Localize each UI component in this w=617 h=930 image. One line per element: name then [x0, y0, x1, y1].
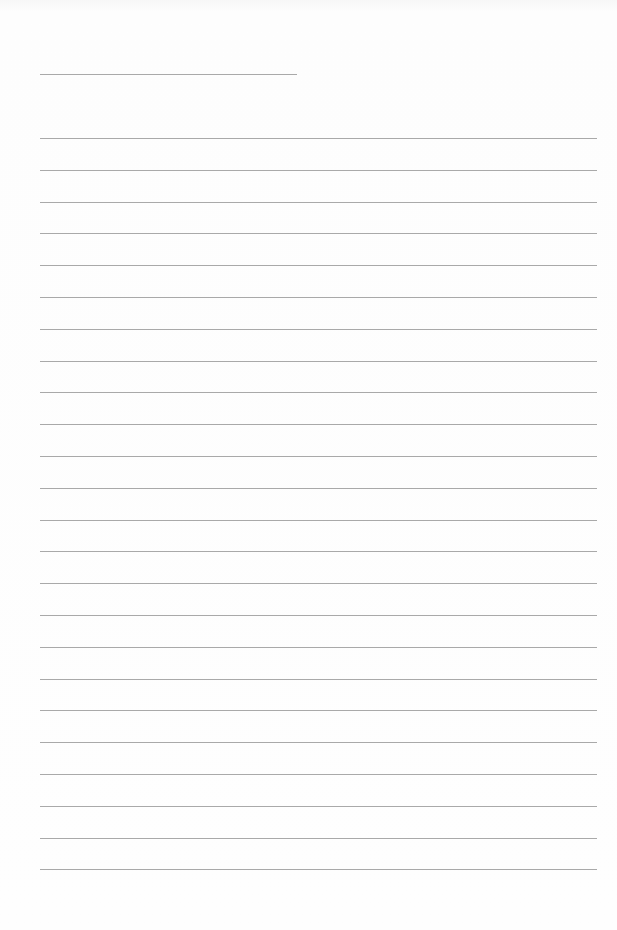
- writing-line: [40, 424, 597, 425]
- writing-line: [40, 615, 597, 616]
- writing-lines: [0, 0, 617, 930]
- writing-line: [40, 710, 597, 711]
- writing-line: [40, 869, 597, 870]
- writing-line: [40, 138, 597, 139]
- writing-line: [40, 170, 597, 171]
- writing-line: [40, 265, 597, 266]
- writing-line: [40, 806, 597, 807]
- writing-line: [40, 392, 597, 393]
- writing-line: [40, 297, 597, 298]
- writing-line: [40, 329, 597, 330]
- writing-line: [40, 488, 597, 489]
- writing-line: [40, 456, 597, 457]
- writing-line: [40, 647, 597, 648]
- writing-line: [40, 551, 597, 552]
- writing-line: [40, 202, 597, 203]
- lined-paper-page: [0, 0, 617, 930]
- writing-line: [40, 520, 597, 521]
- writing-line: [40, 838, 597, 839]
- writing-line: [40, 679, 597, 680]
- writing-line: [40, 361, 597, 362]
- writing-line: [40, 742, 597, 743]
- writing-line: [40, 583, 597, 584]
- writing-line: [40, 233, 597, 234]
- writing-line: [40, 774, 597, 775]
